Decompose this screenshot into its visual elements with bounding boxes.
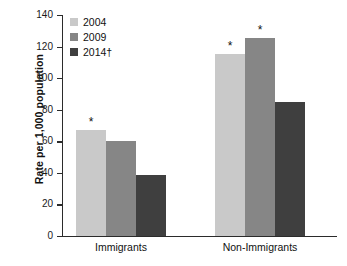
y-tick-label-140: 140 [36,8,53,21]
bar-immigrants-2004: * [76,130,106,236]
bar-immigrants-2009 [106,141,136,236]
bar-nonimmigrants-2014 [275,102,305,236]
significance-star: * [245,25,275,35]
y-tick-140: 140 [57,15,62,16]
y-tick-label-20: 20 [42,197,53,210]
bar-immigrants-2014 [136,175,166,236]
y-axis-line [62,15,63,236]
y-tick-label-80: 80 [42,103,53,116]
y-tick-40: 40 [57,173,62,174]
y-tick-label-40: 40 [42,166,53,179]
bar-chart-figure: Rate per 1,000 population 140 120 100 80… [0,0,347,266]
y-tick-label-60: 60 [42,134,53,147]
significance-star: * [215,41,245,51]
y-tick-0: 0 [57,236,62,237]
y-tick-20: 20 [57,204,62,205]
y-tick-label-120: 120 [36,40,53,53]
y-tick-label-0: 0 [47,229,53,242]
legend-label-2014: 2014† [83,46,112,58]
legend-swatch-2014 [70,48,78,56]
legend-label-2004: 2004 [83,16,106,28]
x-axis-line [62,236,337,237]
legend-item-2014: 2014† [70,44,112,59]
legend-label-2009: 2009 [83,31,106,43]
y-tick-60: 60 [57,141,62,142]
x-tick-label-immigrants: Immigrants [71,241,171,253]
y-tick-label-100: 100 [36,71,53,84]
y-tick-80: 80 [57,110,62,111]
y-tick-120: 120 [57,47,62,48]
legend-item-2004: 2004 [70,14,112,29]
legend-item-2009: 2009 [70,29,112,44]
significance-star: * [76,117,106,127]
x-tick-label-non-immigrants: Non-Immigrants [210,241,310,253]
y-tick-100: 100 [57,78,62,79]
legend: 2004 2009 2014† [70,14,112,59]
legend-swatch-2004 [70,18,78,26]
bar-nonimmigrants-2004: * [215,54,245,236]
bar-nonimmigrants-2009: * [245,38,275,236]
legend-swatch-2009 [70,33,78,41]
